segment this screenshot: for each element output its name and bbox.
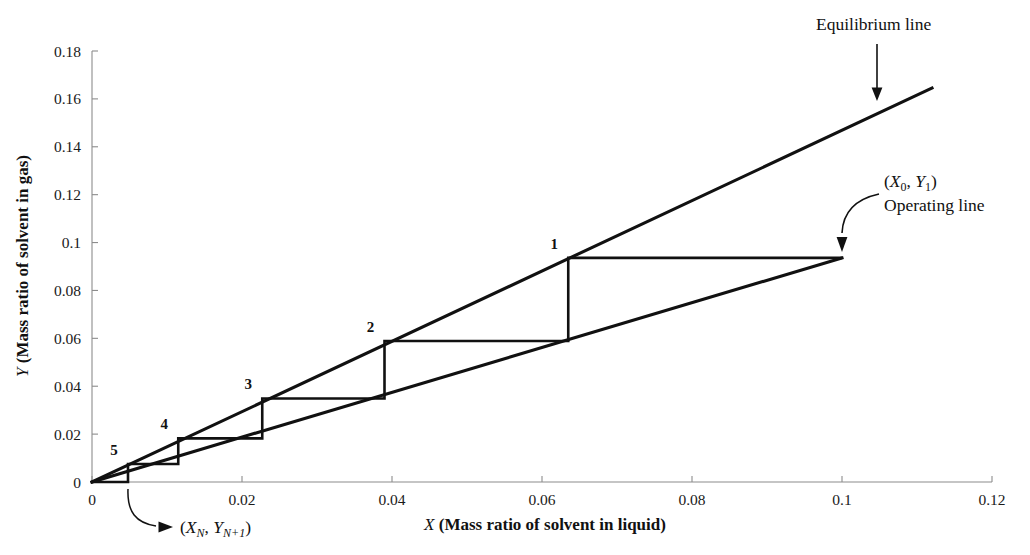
bottom-stage-annotation-label: (XN, YN+1) (180, 517, 251, 540)
y-tick-label: 0.12 (54, 186, 81, 203)
y-tick-label: 0.06 (54, 330, 81, 347)
plot-series (92, 88, 932, 482)
equilibrium-line (92, 88, 932, 482)
y-axis-title: Y (Mass ratio of solvent in gas) (13, 155, 32, 377)
y-tick-label: 0.16 (54, 90, 81, 107)
y-axis-ticks (92, 51, 98, 482)
stage-number-label: 5 (110, 442, 118, 458)
y-tick-label: 0.02 (54, 426, 81, 443)
operating-line (92, 258, 842, 482)
equilibrium-line-annotation-arrowhead (872, 88, 883, 102)
equilibrium-line-annotation-label: Equilibrium line (816, 14, 931, 34)
x-tick-label: 0.04 (378, 491, 405, 508)
x-axis-title: X (Mass ratio of solvent in liquid) (423, 515, 666, 534)
x-tick-label: 0.12 (978, 491, 1005, 508)
x-tick-label: 0 (88, 491, 96, 508)
chart-figure: 00.020.040.060.080.10.12 00.020.040.060.… (0, 0, 1030, 555)
stage-construction-chart: 00.020.040.060.080.10.12 00.020.040.060.… (0, 0, 1030, 555)
x-tick-label: 0.06 (528, 491, 555, 508)
y-tick-label: 0.1 (62, 234, 81, 251)
stage-number-label: 1 (551, 236, 559, 252)
bottom-stage-annotation-arrowhead (159, 522, 174, 533)
stage-number-label: 3 (245, 376, 253, 392)
x-tick-label: 0.02 (228, 491, 255, 508)
x-axis-ticks (92, 476, 992, 482)
operating-line-annotation: (X0, Y1) Operating line (837, 171, 985, 252)
x-tick-label: 0.08 (678, 491, 705, 508)
bottom-stage-annotation-arrow (128, 489, 156, 526)
y-tick-label: 0.18 (54, 43, 81, 60)
stage-number-labels: 12345 (110, 236, 558, 458)
x-axis-tick-labels: 00.020.040.060.080.10.12 (88, 491, 1005, 508)
equilibrium-line-annotation: Equilibrium line (816, 14, 931, 101)
operating-line-annotation-arrowhead (837, 237, 848, 252)
y-axis-tick-labels: 00.020.040.060.080.10.120.140.160.18 (54, 43, 81, 491)
y-tick-label: 0 (73, 474, 81, 491)
stage-number-label: 2 (367, 319, 375, 335)
operating-line-annotation-point-label: (X0, Y1) (884, 171, 937, 194)
y-tick-label: 0.14 (54, 138, 81, 155)
stage-number-label: 4 (161, 416, 169, 432)
operating-line-annotation-arrow (842, 194, 879, 233)
x-tick-label: 0.1 (832, 491, 851, 508)
operating-line-annotation-label: Operating line (884, 195, 985, 215)
y-tick-label: 0.08 (54, 282, 81, 299)
y-tick-label: 0.04 (54, 378, 81, 395)
